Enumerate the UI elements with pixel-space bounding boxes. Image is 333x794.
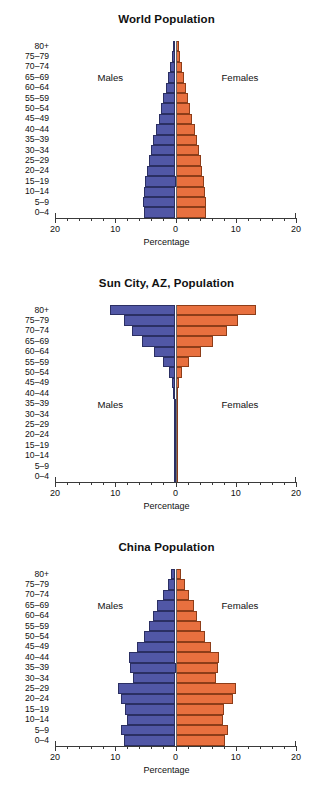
x-tick-minor [139,746,140,749]
x-tick-minor [200,746,201,749]
age-group-label: 15–19 [25,177,49,186]
x-tick-major [176,218,177,223]
age-group-label: 0–4 [35,208,49,217]
bar-male [149,155,176,165]
bar-male [168,72,175,82]
x-tick-minor [200,482,201,485]
age-group-label: 30–34 [25,674,49,683]
x-tick-label: 0 [163,224,189,234]
series-label-males: Males [98,600,124,611]
x-tick-minor [284,482,285,485]
x-tick-minor [163,218,164,221]
age-group-label: 55–59 [25,358,49,367]
bar-female [176,176,204,186]
bar-male [159,114,176,124]
age-group-label: 40–44 [25,653,49,662]
bar-male [163,93,175,103]
x-tick-minor [103,482,104,485]
x-tick-major [296,482,297,487]
age-group-label: 35–39 [25,399,49,408]
age-group-label: 35–39 [25,663,49,672]
age-group-label: 50–54 [25,632,49,641]
bar-female [176,347,201,357]
x-tick-major [236,482,237,487]
x-tick-minor [188,482,189,485]
bar-male [154,347,176,357]
age-group-label: 75–79 [25,580,49,589]
center-axis-line [176,569,177,746]
x-tick-minor [224,218,225,221]
x-tick-major [55,746,56,751]
age-group-label: 40–44 [25,389,49,398]
x-tick-minor [103,218,104,221]
bar-female [176,704,225,714]
x-tick-minor [272,482,273,485]
age-group-label: 55–59 [25,622,49,631]
x-tick-major [55,482,56,487]
x-tick-minor [79,482,80,485]
bar-male [153,135,175,145]
x-tick-major [176,746,177,751]
bar-male [142,336,175,346]
bar-female [176,103,190,113]
center-axis-line [176,305,177,482]
bar-female [176,621,201,631]
series-label-males: Males [98,399,124,410]
age-group-label: 70–74 [25,62,49,71]
x-tick-minor [272,218,273,221]
x-tick-minor [248,482,249,485]
x-tick-minor [91,482,92,485]
age-group-label: 35–39 [25,135,49,144]
age-group-label: 50–54 [25,104,49,113]
chart-sun-city-population: Sun City, AZ, Population80+75–7970–7465–… [0,264,333,528]
age-group-label: 80+ [34,306,49,315]
bar-female [176,694,233,704]
x-tick-major [296,746,297,751]
x-axis-title: Percentage [0,765,333,775]
bar-male [118,683,176,693]
x-tick-minor [200,218,201,221]
x-tick-minor [151,218,152,221]
bar-male [144,207,176,217]
series-label-males: Males [98,72,124,83]
x-tick-minor [67,482,68,485]
x-tick-minor [127,482,128,485]
age-group-label: 55–59 [25,94,49,103]
x-tick-minor [139,482,140,485]
bar-female [176,336,213,346]
x-tick-label: 10 [223,752,249,762]
age-group-label: 60–64 [25,83,49,92]
age-group-label: 15–19 [25,705,49,714]
x-tick-minor [260,482,261,485]
bar-female [176,326,228,336]
x-tick-minor [127,218,128,221]
x-tick-major [296,218,297,223]
bar-female [176,305,257,315]
x-tick-minor [248,218,249,221]
age-group-label: 45–49 [25,378,49,387]
x-tick-label: 20 [283,488,309,498]
x-tick-minor [188,746,189,749]
age-group-label: 70–74 [25,326,49,335]
x-tick-minor [284,746,285,749]
bar-male [149,621,176,631]
chart-title: World Population [0,13,333,25]
bar-female [176,735,225,745]
age-group-label: 45–49 [25,642,49,651]
x-tick-minor [248,746,249,749]
x-tick-label: 20 [283,752,309,762]
bar-female [176,357,190,367]
bar-male [127,715,176,725]
x-tick-minor [91,746,92,749]
x-tick-label: 20 [283,224,309,234]
bar-female [176,155,201,165]
chart-world-population: World Population80+75–7970–7465–6960–645… [0,0,333,264]
bar-female [176,600,194,610]
bar-male [110,305,175,315]
age-group-label: 70–74 [25,590,49,599]
x-tick-major [115,482,116,487]
bar-female [176,579,185,589]
bar-male [147,166,175,176]
age-group-label: 45–49 [25,114,49,123]
age-group-label: 75–79 [25,316,49,325]
